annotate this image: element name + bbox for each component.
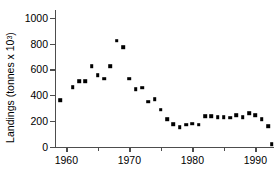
y-axis-tick-label: 600 bbox=[30, 63, 48, 75]
data-point bbox=[146, 100, 150, 104]
data-point bbox=[203, 114, 207, 118]
data-point bbox=[266, 125, 270, 129]
data-point bbox=[241, 115, 245, 119]
data-point bbox=[216, 115, 220, 119]
x-axis-minor-tick bbox=[98, 147, 99, 151]
data-point bbox=[153, 97, 157, 101]
y-axis-tick-label: 0 bbox=[42, 141, 48, 153]
y-axis-tick-label: 400 bbox=[30, 89, 48, 101]
data-point bbox=[222, 115, 226, 119]
y-axis-title-text: Landings (tonnes x 10 bbox=[4, 40, 16, 143]
data-point bbox=[102, 77, 106, 81]
data-point bbox=[209, 114, 213, 118]
y-axis-tick bbox=[50, 18, 55, 19]
data-point bbox=[77, 80, 81, 84]
data-point bbox=[247, 111, 251, 115]
x-axis-tick-label: 1980 bbox=[181, 154, 204, 166]
data-point bbox=[140, 86, 144, 90]
y-axis-tick bbox=[50, 44, 55, 45]
data-point bbox=[178, 126, 182, 130]
data-point bbox=[197, 123, 201, 127]
data-point bbox=[235, 113, 239, 117]
y-axis-tick-label: 1000 bbox=[25, 12, 48, 24]
data-point bbox=[90, 64, 94, 68]
data-point bbox=[96, 73, 100, 77]
landings-scatter-chart: Landings (tonnes x 103) 0200400600800100… bbox=[0, 0, 280, 175]
y-axis-tick-label: 200 bbox=[30, 115, 48, 127]
data-point bbox=[134, 87, 138, 91]
x-axis-tick-label: 1990 bbox=[244, 154, 267, 166]
plot-area: 020040060080010001960197019801990 bbox=[55, 10, 273, 147]
data-point bbox=[115, 39, 119, 43]
x-axis-line bbox=[55, 147, 274, 148]
x-axis-minor-tick bbox=[161, 147, 162, 151]
data-point bbox=[159, 108, 163, 112]
y-axis-title: Landings (tonnes x 103) bbox=[2, 0, 18, 175]
y-axis-tick-label: 800 bbox=[30, 38, 48, 50]
data-point bbox=[71, 85, 75, 89]
x-axis-tick-label: 1970 bbox=[118, 154, 141, 166]
y-axis-tick bbox=[50, 147, 55, 148]
x-axis-tick bbox=[192, 147, 193, 152]
data-point bbox=[191, 122, 195, 126]
data-point bbox=[270, 142, 274, 146]
data-point bbox=[58, 98, 62, 102]
data-point bbox=[228, 116, 232, 120]
x-axis-tick bbox=[129, 147, 130, 152]
data-point bbox=[254, 113, 258, 117]
data-point bbox=[109, 64, 113, 68]
data-point bbox=[172, 122, 176, 126]
x-axis-minor-tick bbox=[224, 147, 225, 151]
y-axis-tick bbox=[50, 121, 55, 122]
data-point bbox=[128, 77, 132, 81]
data-point bbox=[121, 46, 125, 50]
data-point bbox=[184, 123, 188, 127]
y-axis-tick bbox=[50, 95, 55, 96]
x-axis-tick-label: 1960 bbox=[55, 154, 78, 166]
data-point bbox=[260, 117, 264, 121]
data-point bbox=[165, 117, 169, 121]
y-axis-tick bbox=[50, 69, 55, 70]
x-axis-tick bbox=[255, 147, 256, 152]
x-axis-tick bbox=[66, 147, 67, 152]
y-axis-title-suffix: ) bbox=[4, 32, 16, 36]
data-point bbox=[83, 80, 87, 84]
